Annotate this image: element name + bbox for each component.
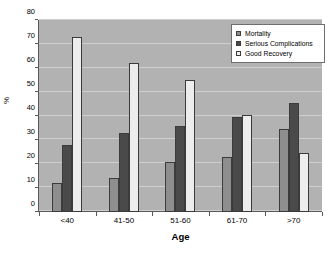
x-tick-label: >70 [265, 216, 322, 225]
bar [72, 37, 82, 212]
bar [289, 103, 299, 212]
x-axis-title: Age [39, 231, 322, 242]
bar [119, 133, 129, 212]
legend-label: Mortality [245, 30, 271, 37]
bar-group [96, 20, 153, 212]
x-tick-label: 41-50 [96, 216, 153, 225]
bar [129, 63, 139, 212]
y-tick-mark [35, 91, 38, 92]
y-tick-mark [35, 115, 38, 116]
y-tick-mark [35, 211, 38, 212]
bar [242, 115, 252, 212]
y-tick-label: 10 [11, 176, 35, 184]
bar [52, 183, 62, 212]
legend-label: Good Recovery [245, 50, 292, 57]
y-tick-label: 0 [11, 200, 35, 208]
bar [222, 157, 232, 212]
legend-swatch-icon [236, 51, 241, 56]
x-tick-label: 51-60 [152, 216, 209, 225]
bar [109, 178, 119, 212]
y-tick-label: 60 [11, 56, 35, 64]
bar-group [39, 20, 96, 212]
legend-item: Good Recovery [236, 49, 320, 58]
y-tick-mark [35, 67, 38, 68]
y-tick-mark [35, 43, 38, 44]
bar [279, 129, 289, 212]
x-tick-label: <40 [39, 216, 96, 225]
legend-swatch-icon [236, 31, 241, 36]
legend-label: Serious Complications [245, 40, 313, 47]
legend: MortalitySerious ComplicationsGood Recov… [231, 24, 325, 63]
y-tick-label: 70 [11, 32, 35, 40]
legend-item: Serious Complications [236, 39, 320, 48]
bar [232, 117, 242, 212]
bar [165, 162, 175, 212]
bar [299, 153, 309, 212]
bar [175, 126, 185, 212]
x-tick-label: 61-70 [209, 216, 266, 225]
y-axis: 80706050403020100 [8, 20, 35, 212]
y-tick-label: 80 [11, 8, 35, 16]
y-tick-mark [35, 163, 38, 164]
legend-swatch-icon [236, 41, 241, 46]
x-axis-labels: <4041-5051-6061-70>70 [39, 216, 322, 225]
y-tick-label: 30 [11, 128, 35, 136]
y-axis-title: % [2, 97, 11, 104]
bar [185, 80, 195, 212]
legend-item: Mortality [236, 29, 320, 38]
bar [62, 145, 72, 212]
y-tick-label: 50 [11, 80, 35, 88]
y-tick-mark [35, 19, 38, 20]
y-tick-mark [35, 187, 38, 188]
y-tick-label: 40 [11, 104, 35, 112]
bar-group [152, 20, 209, 212]
y-tick-mark [35, 139, 38, 140]
y-tick-label: 20 [11, 152, 35, 160]
bar-chart: 80706050403020100 % <4041-5051-6061-70>7… [0, 0, 335, 257]
x-tick-mark [322, 212, 323, 216]
